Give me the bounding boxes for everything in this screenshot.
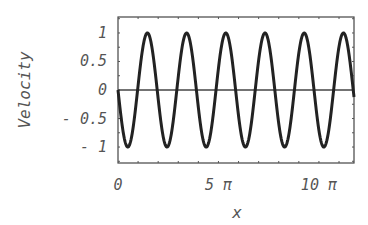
y-tick-label: 0.5 [80,52,107,70]
y-tick-label: 0 [98,81,107,99]
y-tick-label: - 1 [80,138,107,156]
x-tick-label: 0 [113,176,122,194]
y-tick-labels: 10.50- 0.5- 1 [62,24,107,156]
x-tick-label: 5 π [205,176,232,194]
y-axis-title: Velocity [15,51,34,128]
x-tick-label: 10 π [301,176,337,194]
x-axis-title: x [231,203,242,222]
y-tick-label: - 0.5 [62,110,107,128]
x-tick-labels: 05 π10 π [113,176,337,194]
y-tick-label: 1 [98,24,107,42]
velocity-chart: 05 π10 π 10.50- 0.5- 1 x Velocity [0,0,368,225]
